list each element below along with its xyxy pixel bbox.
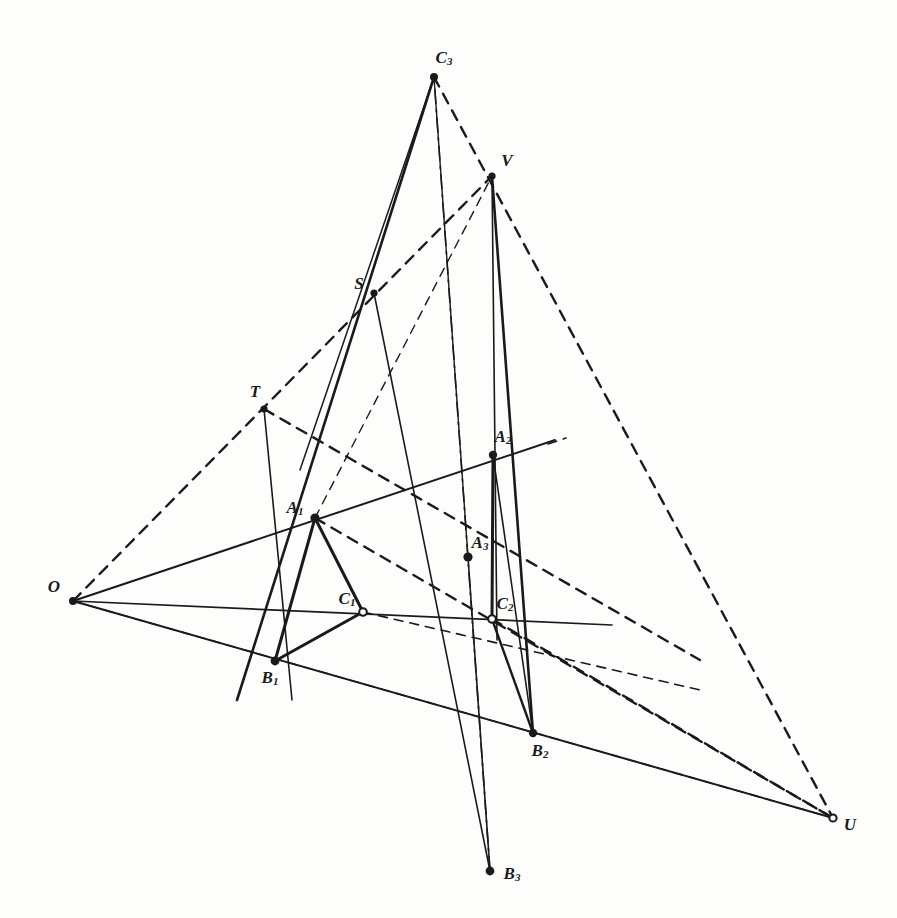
point-marker-b1[interactable] [271,657,280,666]
point-label-s: S [354,275,363,292]
point-label-letter: V [501,151,512,170]
point-label-b1: B1 [262,669,279,687]
segment-line-C3-S-B1-extended [237,77,434,700]
point-label-subscript: 2 [506,434,512,446]
point-label-subscript: 3 [515,871,521,883]
point-label-a3: A3 [472,534,489,552]
point-label-c2: C2 [497,595,514,613]
point-label-a2: A2 [495,428,512,446]
point-label-letter: A [495,427,506,446]
point-marker-v[interactable] [488,172,495,179]
point-label-letter: C [436,48,447,67]
point-marker-c1[interactable] [359,608,367,616]
point-label-letter: B [504,864,515,883]
geometry-svg [0,0,897,918]
figure-canvas: OTSVUC3A1A2A3B1B2B3C1C2 [0,0,897,918]
point-label-letter: B [532,741,543,760]
point-label-letter: B [262,668,273,687]
point-label-subscript: 2 [508,601,514,613]
point-marker-c2[interactable] [488,615,496,623]
segment-axis-dashed-C3-V-U [434,77,833,818]
point-marker-s[interactable] [370,289,377,296]
point-marker-b3[interactable] [486,867,495,876]
point-label-u: U [844,816,856,833]
segment-triangle-side-C3-A3 [434,77,468,557]
point-marker-a2[interactable] [489,451,497,459]
point-label-letter: O [48,577,60,596]
point-label-letter: C [339,589,350,608]
point-label-b2: B2 [532,742,549,760]
point-label-v: V [501,152,512,169]
point-label-b3: B3 [504,865,521,883]
point-label-letter: C [497,594,508,613]
point-marker-c3[interactable] [430,73,438,81]
point-label-letter: U [844,815,856,834]
point-label-a1: A1 [287,499,304,517]
point-label-subscript: 3 [447,55,453,67]
point-label-letter: A [472,533,483,552]
point-label-letter: T [250,382,260,401]
segment-line-S-A1-B3 [374,293,490,871]
segment-triangle-side-C2-A2 [492,455,493,619]
point-label-c3: C3 [436,49,453,67]
point-label-subscript: 1 [350,596,356,608]
segment-line-C3-A1-B3-extended [300,77,434,470]
point-marker-t[interactable] [260,405,267,412]
point-label-c1: C1 [339,590,356,608]
point-marker-o[interactable] [69,597,77,605]
point-label-subscript: 1 [298,505,304,517]
point-marker-u[interactable] [829,814,836,821]
point-label-t: T [250,383,260,400]
point-marker-a3[interactable] [463,552,472,561]
segment-axis-dashed-O-T-S-V [73,176,492,601]
point-label-letter: A [287,498,298,517]
segment-axis-dashed-C1-C2-right [363,612,700,690]
point-label-subscript: 1 [273,675,279,687]
point-label-letter: S [354,274,363,293]
point-label-subscript: 3 [483,540,489,552]
point-label-subscript: 2 [543,748,549,760]
point-marker-a1[interactable] [310,513,319,522]
point-marker-b2[interactable] [529,729,537,737]
point-label-o: O [48,578,60,595]
